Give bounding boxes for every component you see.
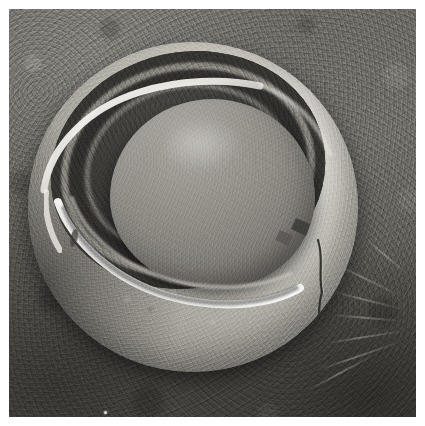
inner-sphere	[110, 99, 315, 289]
dust-speck	[104, 411, 107, 414]
inner-sphere-highlight	[159, 118, 253, 183]
micrograph-viewport	[0, 0, 425, 426]
outer-shell	[28, 42, 358, 372]
micrograph-plate	[9, 9, 416, 417]
